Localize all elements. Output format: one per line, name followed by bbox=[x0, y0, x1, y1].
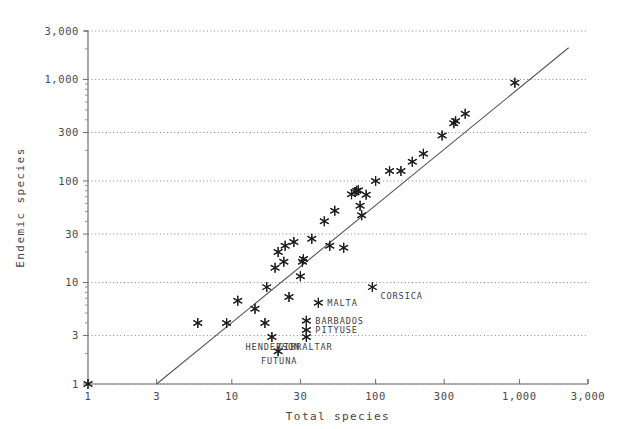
y-tick-label: 1,000 bbox=[44, 73, 79, 85]
y-axis-title: Endemic species bbox=[14, 147, 27, 267]
data-point bbox=[268, 332, 277, 342]
x-tick-label: 300 bbox=[434, 390, 455, 402]
data-point bbox=[289, 237, 298, 247]
y-tick-label: 300 bbox=[58, 126, 79, 138]
point-label-futuna: FUTUNA bbox=[261, 356, 297, 366]
y-tick-label: 3,000 bbox=[44, 25, 79, 37]
data-point bbox=[279, 257, 288, 267]
data-point bbox=[511, 78, 520, 88]
point-label-pityuse: PITYUSE bbox=[315, 325, 358, 335]
x-axis-title: Total species bbox=[286, 410, 390, 423]
data-point bbox=[296, 271, 305, 281]
data-point bbox=[397, 166, 406, 176]
y-tick-label: 10 bbox=[65, 276, 79, 288]
x-tick-label: 100 bbox=[365, 390, 386, 402]
data-point bbox=[285, 292, 294, 302]
point-label-barbados: BARBADOS bbox=[315, 316, 364, 326]
data-point bbox=[438, 131, 447, 141]
x-tick-label: 1,000 bbox=[502, 390, 537, 402]
data-point bbox=[251, 304, 260, 314]
point-labels: HENDERSONFUTUNAGIBRALTARPITYUSEBARBADOSM… bbox=[246, 291, 423, 366]
point-label-gibraltar: GIBRALTAR bbox=[278, 342, 333, 352]
x-tick-label: 3,000 bbox=[571, 390, 606, 402]
y-tick-label: 100 bbox=[58, 175, 79, 187]
data-point bbox=[307, 234, 316, 244]
data-point bbox=[385, 166, 394, 176]
y-tick-label: 1 bbox=[72, 378, 79, 390]
x-tick-label: 3 bbox=[153, 390, 160, 402]
data-point bbox=[419, 149, 428, 159]
data-point bbox=[368, 282, 377, 292]
scatter-plot-svg: HENDERSONFUTUNAGIBRALTARPITYUSEBARBADOSM… bbox=[0, 0, 636, 429]
data-point bbox=[302, 316, 311, 326]
point-label-corsica: CORSICA bbox=[380, 291, 423, 301]
data-point bbox=[233, 296, 242, 306]
data-point bbox=[222, 318, 231, 328]
data-point bbox=[302, 325, 311, 335]
data-point bbox=[314, 298, 323, 308]
data-point bbox=[362, 190, 371, 200]
x-tick-label: 1 bbox=[85, 390, 92, 402]
data-point bbox=[271, 263, 280, 273]
data-point bbox=[261, 318, 270, 328]
y-tick-label: 30 bbox=[65, 228, 79, 240]
chart-figure: HENDERSONFUTUNAGIBRALTARPITYUSEBARBADOSM… bbox=[0, 0, 636, 429]
data-point bbox=[262, 282, 271, 292]
x-tick-label: 10 bbox=[225, 390, 239, 402]
data-point bbox=[320, 216, 329, 226]
data-point bbox=[356, 201, 365, 211]
x-tick-label: 30 bbox=[293, 390, 307, 402]
data-point bbox=[339, 243, 348, 253]
y-tick-label: 3 bbox=[72, 329, 79, 341]
data-point bbox=[193, 318, 202, 328]
data-point bbox=[461, 109, 470, 119]
point-label-malta: MALTA bbox=[327, 298, 357, 308]
data-point bbox=[330, 206, 339, 216]
data-point bbox=[408, 157, 417, 167]
